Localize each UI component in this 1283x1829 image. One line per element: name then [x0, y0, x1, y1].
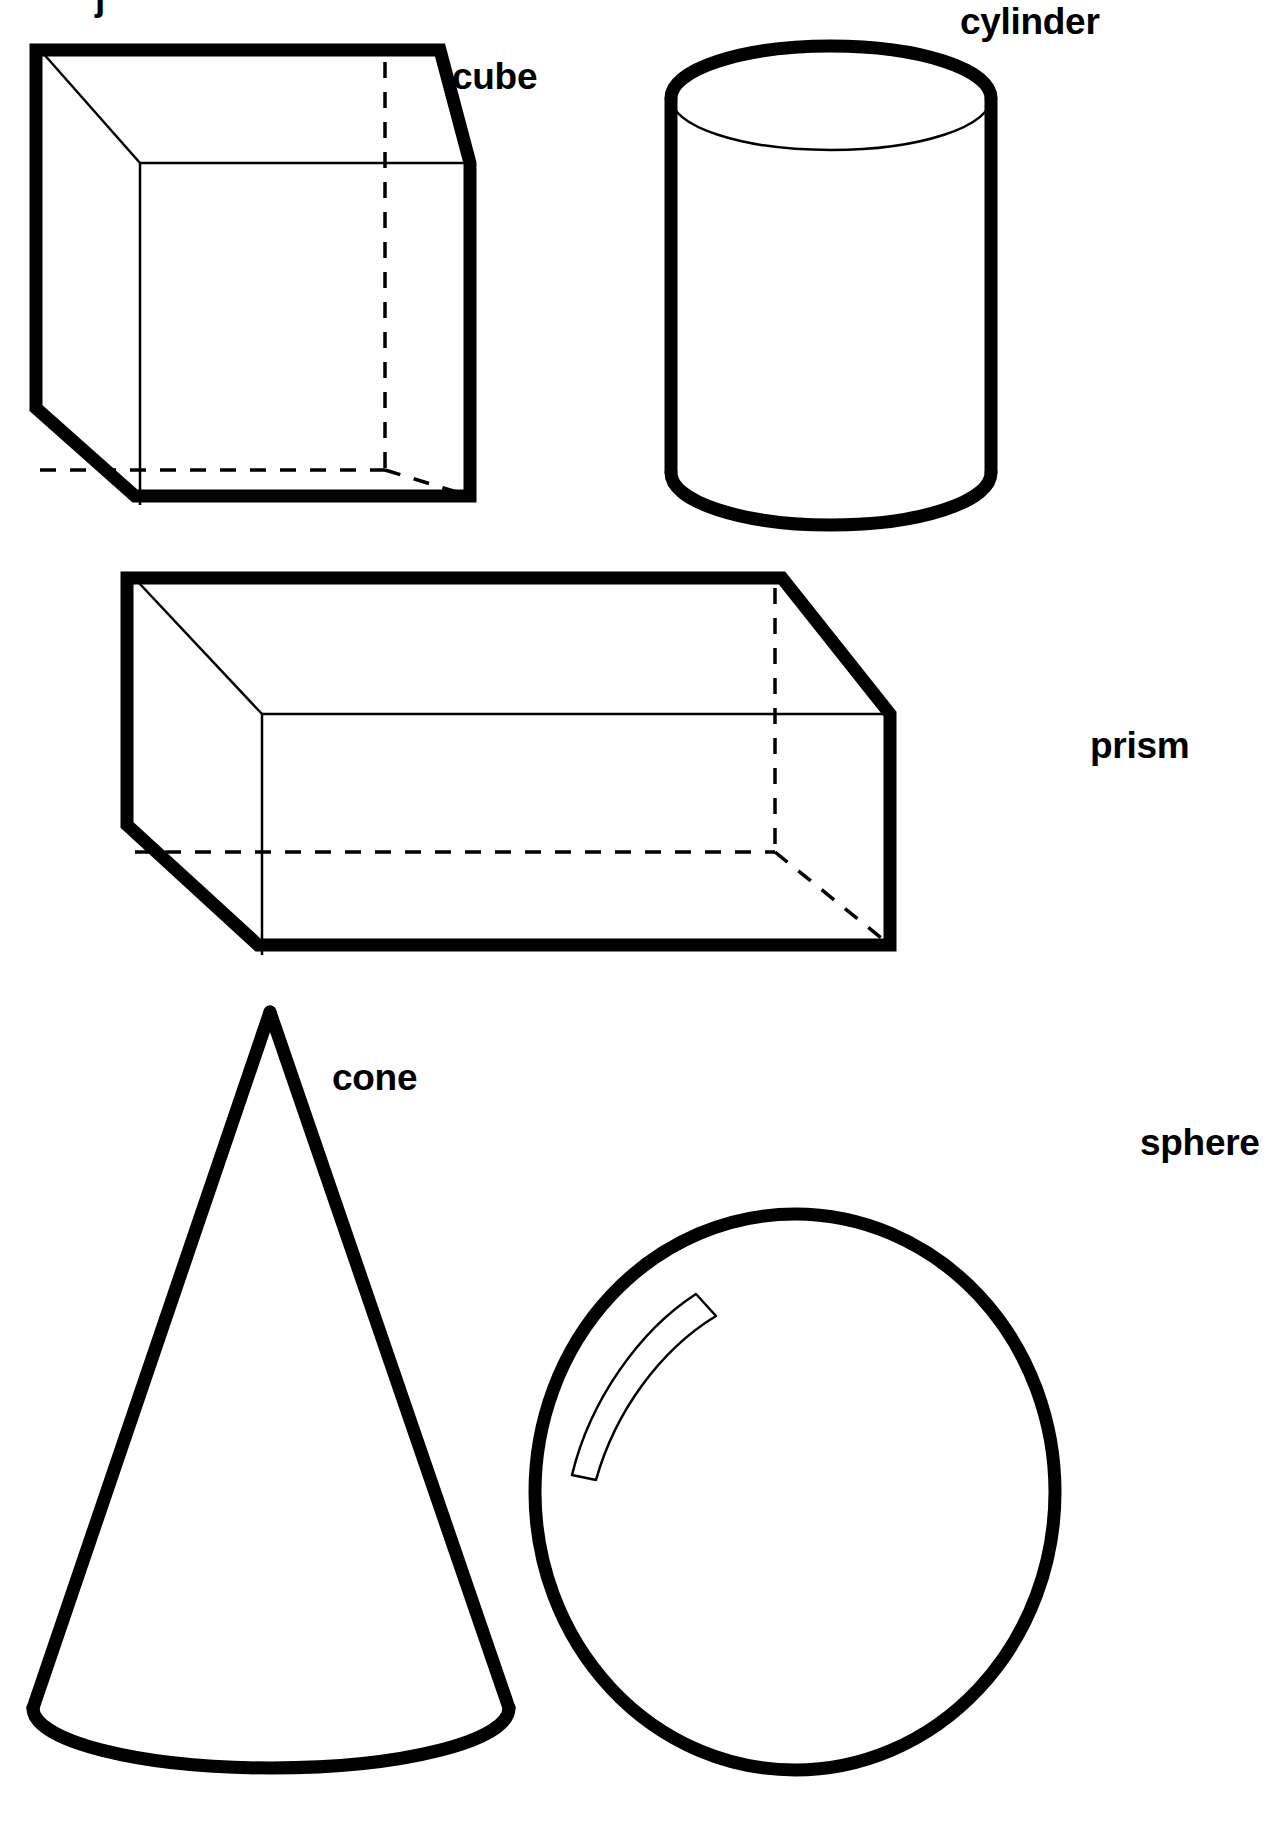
- cylinder-base-front-arc: [671, 473, 991, 525]
- solid-cone: cone: [33, 1012, 509, 1768]
- cylinder-top-back-arc: [671, 46, 991, 98]
- cone-label: cone: [332, 1057, 417, 1098]
- cone-base-front-arc: [33, 1708, 509, 1768]
- cone-hidden-base-arc: [33, 1708, 509, 1768]
- worksheet-page: j cube: [0, 0, 1283, 1829]
- sphere-outline: [535, 1214, 1055, 1770]
- cube-hidden-edges: [40, 62, 470, 496]
- prism-hidden-edges: [135, 588, 890, 945]
- cone-right-slant: [270, 1012, 509, 1708]
- cube-interior-edges: [42, 52, 470, 505]
- cube-outline: [36, 50, 470, 496]
- solid-cylinder: cylinder: [671, 1, 1100, 525]
- clipped-header-text: j: [94, 0, 105, 18]
- solid-sphere: sphere: [535, 1122, 1260, 1770]
- cylinder-label: cylinder: [960, 1, 1100, 42]
- prism-label: prism: [1090, 725, 1189, 766]
- sphere-label: sphere: [1140, 1122, 1260, 1163]
- prism-interior-edges: [139, 583, 890, 955]
- cone-left-slant: [33, 1012, 270, 1708]
- solid-prism: prism: [127, 578, 1189, 955]
- cube-label: cube: [452, 56, 537, 97]
- cylinder-hidden-base-arc: [671, 473, 991, 525]
- cylinder-top-front-arc: [671, 98, 991, 150]
- geometric-solids-figure: j cube: [0, 0, 1283, 1829]
- solid-cube: cube: [36, 50, 537, 505]
